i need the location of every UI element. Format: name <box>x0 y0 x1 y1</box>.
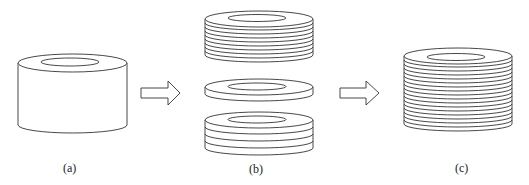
panel-a-cylinder <box>18 54 127 133</box>
panel-b-top-stack <box>205 11 313 62</box>
panel-label-a: (a) <box>63 161 76 176</box>
arrow-right-icon <box>141 81 180 105</box>
panel-b-single-disk <box>205 79 313 101</box>
panel-label-c: (c) <box>455 161 468 176</box>
panel-b-bottom-stack <box>205 112 313 155</box>
arrow-right-icon <box>340 81 379 105</box>
diagram-canvas <box>0 0 529 185</box>
panel-c-laminated-ring <box>404 48 512 131</box>
panel-label-b: (b) <box>249 162 263 177</box>
